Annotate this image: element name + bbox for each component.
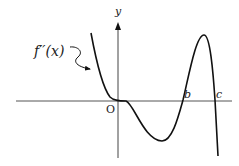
- function-curve: [91, 33, 218, 156]
- y-axis-label: y: [114, 5, 122, 18]
- label-pointer-arrow: [70, 47, 90, 69]
- graph: f′′(x) y O b c: [0, 0, 239, 166]
- root-label-c: c: [216, 88, 222, 101]
- function-label: f′′(x): [33, 43, 64, 59]
- origin-label: O: [106, 103, 115, 116]
- root-label-b: b: [184, 88, 191, 101]
